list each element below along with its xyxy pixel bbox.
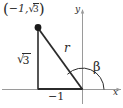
- y-axis-label: y: [75, 5, 80, 14]
- horizontal-leg-label: −1: [48, 91, 64, 102]
- y-axis-arrowhead: [81, 9, 84, 14]
- point-coordinate-label: (−1,√3): [3, 2, 45, 17]
- radical-glyph-icon: √: [29, 4, 35, 14]
- trigonometry-figure: (−1,√3) √3 r β −1 y x: [0, 0, 123, 108]
- hypotenuse-label: r: [64, 42, 70, 54]
- angle-beta-label: β: [93, 60, 101, 73]
- x-axis-label: x: [113, 88, 118, 97]
- point-x-value: −1,: [9, 2, 29, 15]
- radical-overbar: [33, 3, 40, 4]
- point-y-radical: √3: [29, 2, 39, 14]
- radical-glyph-icon: √: [17, 53, 25, 65]
- hypotenuse-segment: [38, 28, 83, 90]
- vertical-leg-label: √3: [17, 52, 30, 66]
- point-close-paren: ): [39, 0, 45, 18]
- plotted-point: [35, 24, 42, 31]
- radical-overbar: [22, 53, 31, 54]
- vertical-leg-radical: √3: [17, 52, 30, 66]
